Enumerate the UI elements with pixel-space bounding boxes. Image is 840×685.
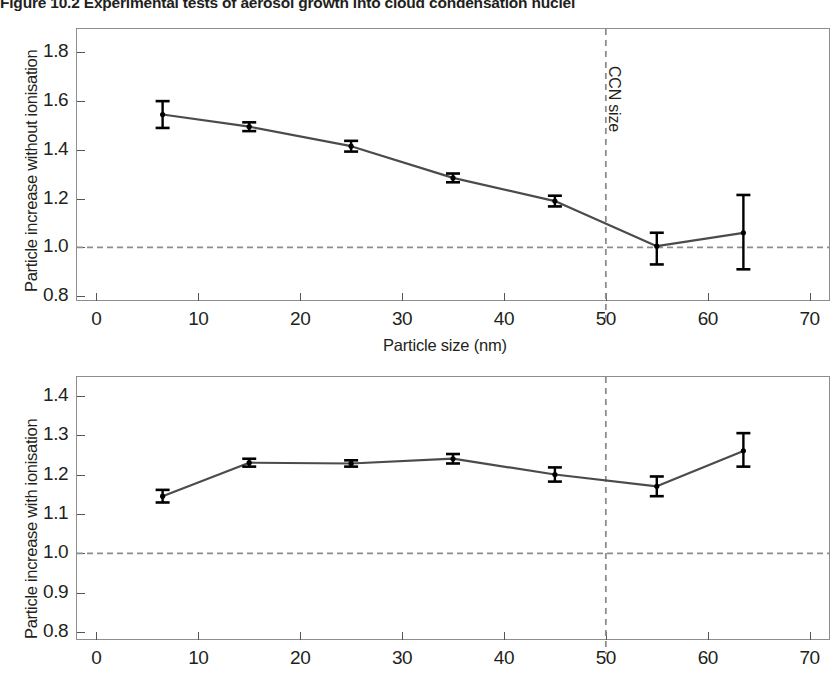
plot-canvas-with-ionisation	[0, 0, 840, 685]
data-point-with-error-bar	[156, 490, 170, 503]
data-point-with-error-bar	[736, 433, 750, 466]
